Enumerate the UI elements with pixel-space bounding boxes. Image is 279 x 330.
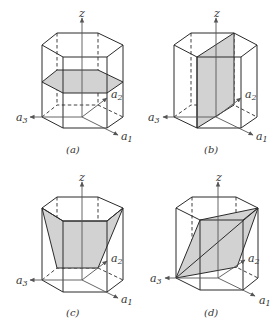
a3-label: a3 bbox=[148, 111, 160, 125]
a1-label: a1 bbox=[259, 294, 271, 308]
a1-label: a1 bbox=[256, 130, 268, 144]
panel-d: z a3 a2 a1 (d) bbox=[150, 171, 271, 318]
hexagonal-planes-figure: z a3 a2 a1 (a) z a3 a2 a1 (b) bbox=[0, 0, 279, 330]
a2-label: a2 bbox=[111, 88, 123, 102]
caption-b: (b) bbox=[204, 144, 218, 155]
a1-axis bbox=[82, 280, 118, 298]
shaded-plane bbox=[197, 33, 234, 128]
a3-label: a3 bbox=[16, 111, 28, 125]
a1-axis bbox=[218, 278, 255, 296]
z-label: z bbox=[78, 171, 85, 184]
caption-d: (d) bbox=[204, 307, 218, 318]
a2-label: a2 bbox=[245, 88, 257, 102]
z-label: z bbox=[215, 171, 222, 184]
a1-axis bbox=[216, 117, 253, 135]
a1-label: a1 bbox=[121, 130, 133, 144]
a1-axis bbox=[82, 117, 118, 135]
z-label: z bbox=[213, 7, 220, 20]
panel-b: z a3 a2 a1 (b) bbox=[148, 7, 268, 155]
a2-label: a2 bbox=[111, 252, 123, 266]
a3-label: a3 bbox=[150, 272, 162, 286]
a1-label: a1 bbox=[121, 293, 133, 307]
panel-a: z a3 a2 a1 (a) bbox=[16, 7, 133, 155]
z-label: z bbox=[78, 7, 85, 20]
caption-a: (a) bbox=[66, 144, 80, 155]
panel-c: z a3 a2 a1 (c) bbox=[16, 171, 133, 318]
caption-c: (c) bbox=[66, 307, 80, 318]
a3-label: a3 bbox=[16, 274, 28, 288]
